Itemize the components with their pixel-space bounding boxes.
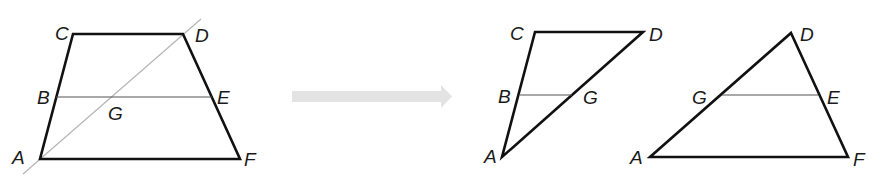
label-e: E	[217, 87, 230, 108]
label-e: E	[827, 87, 840, 108]
label-c: C	[510, 23, 524, 44]
label-b: B	[498, 86, 511, 107]
trapezoid-figure: C D B E G A F	[11, 19, 257, 174]
label-c: C	[55, 23, 69, 44]
label-g: G	[692, 87, 707, 108]
geometry-diagram: C D B E G A F C D B G A D G E A F	[0, 0, 882, 176]
triangle-acd-figure: C D B G A	[483, 23, 663, 167]
label-d: D	[195, 25, 209, 46]
label-g: G	[583, 87, 598, 108]
label-a: A	[11, 147, 25, 168]
label-d: D	[649, 24, 663, 45]
label-b: B	[37, 87, 50, 108]
triangle-adf-figure: D G E A F	[629, 24, 866, 170]
label-g: G	[108, 103, 123, 124]
arrow-right-icon	[292, 85, 452, 108]
label-f: F	[853, 149, 866, 170]
label-d: D	[800, 24, 814, 45]
label-a: A	[629, 147, 643, 168]
label-a: A	[483, 146, 497, 167]
label-f: F	[244, 149, 257, 170]
